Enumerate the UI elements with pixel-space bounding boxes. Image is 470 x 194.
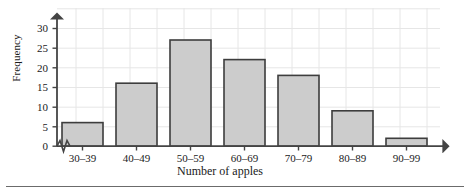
x-tick-label-60-69: 60–69	[224, 153, 265, 164]
bar-90-99	[386, 138, 427, 146]
y-tick-label-0: 0	[22, 141, 48, 152]
x-tick-label-50-59: 50–59	[170, 153, 211, 164]
y-tick-label-5: 5	[22, 122, 48, 133]
x-tick-label-90-99: 90–99	[386, 153, 427, 164]
bar-70-79	[278, 75, 319, 146]
x-tick-label-40-49: 40–49	[116, 153, 157, 164]
y-tick-label-25: 25	[22, 43, 48, 54]
bar-50-59	[170, 40, 211, 146]
bar-series	[62, 40, 427, 146]
bar-40-49	[116, 83, 157, 146]
histogram-figure: 0 5 10 15 20 25 30 30–39 40–49 50–59 60–…	[0, 0, 470, 194]
bar-80-89	[332, 111, 373, 146]
x-tick-label-80-89: 80–89	[332, 153, 373, 164]
x-tick-label-30-39: 30–39	[62, 153, 103, 164]
x-tick-label-70-79: 70–79	[278, 153, 319, 164]
bottom-divider	[6, 186, 464, 187]
y-tick-label-30: 30	[22, 23, 48, 34]
x-axis-title: Number of apples	[0, 164, 440, 179]
bar-60-69	[224, 60, 265, 147]
y-tick-label-10: 10	[22, 102, 48, 113]
y-axis-title: Frequency	[10, 18, 22, 98]
y-tick-label-15: 15	[22, 82, 48, 93]
y-tick-label-20: 20	[22, 63, 48, 74]
